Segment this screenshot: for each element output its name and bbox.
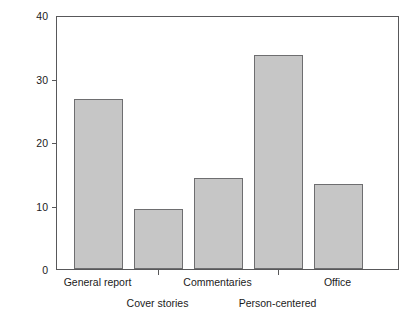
x-axis-category-label: Commentaries — [183, 277, 251, 288]
x-tick-mark — [278, 270, 279, 275]
x-tick-mark — [158, 270, 159, 275]
y-tick-label: 30 — [26, 75, 48, 86]
bar — [134, 209, 183, 269]
x-axis-category-label: Person-centered — [239, 298, 317, 309]
bar — [254, 55, 303, 269]
bar — [74, 99, 123, 269]
x-axis-category-label: General report — [64, 277, 132, 288]
y-tick-label: 40 — [26, 11, 48, 22]
x-axis-category-label: Cover stories — [127, 298, 189, 309]
y-tick-label: 20 — [26, 138, 48, 149]
bar — [194, 178, 243, 269]
plot-area — [56, 16, 399, 270]
y-tick-label: 0 — [26, 265, 48, 276]
y-tick-label: 10 — [26, 202, 48, 213]
bar — [314, 184, 363, 269]
bar-chart-figure: % Stories with allusions 010203040 Gener… — [0, 0, 413, 329]
x-axis-category-label: Office — [324, 277, 351, 288]
